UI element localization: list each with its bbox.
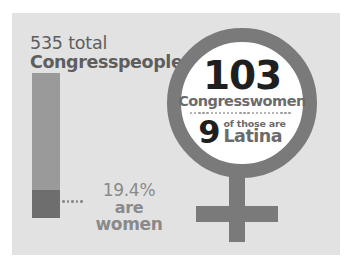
heading-line-2: Congresspeople (30, 53, 190, 72)
heading-line-1: 535 total (30, 34, 190, 53)
venus-cross (196, 206, 278, 222)
latina-count: 9 (198, 119, 219, 145)
latina-text-group: of those are Latina (223, 119, 285, 146)
congresspeople-heading: 535 total Congresspeople (30, 34, 190, 71)
latina-label: Latina (223, 128, 285, 146)
venus-circle-content: 103 Congresswomen 9 of those are Latina (181, 42, 303, 164)
venus-symbol-icon: 103 Congresswomen 9 of those are Latina (167, 28, 309, 244)
dotted-divider (190, 112, 294, 115)
congresswomen-count: 103 (203, 58, 281, 93)
congresspeople-bar-chart (32, 73, 60, 218)
congresswomen-label: Congresswomen (178, 94, 306, 109)
latina-stat-row: 9 of those are Latina (198, 119, 286, 146)
infographic-root: 535 total Congresspeople 19.4% are women… (0, 0, 347, 268)
bar-segment-women (32, 190, 60, 218)
